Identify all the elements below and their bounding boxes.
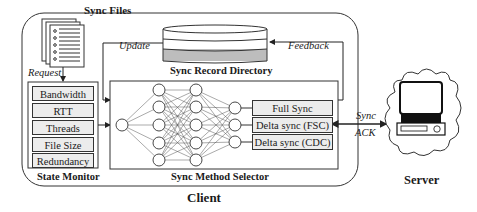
method-delta-sync-fsc: Delta sync (FSC)	[252, 117, 333, 133]
state-monitor-item-bandwidth: Bandwidth	[32, 86, 94, 101]
computer-cloud-icon	[385, 69, 461, 156]
state-monitor-item-file-size: File Size	[32, 137, 94, 152]
state-monitor-item-redundancy: Redundancy	[32, 153, 94, 168]
document-stack-icon	[42, 19, 84, 67]
method-delta-sync-cdc: Delta sync (CDC)	[252, 134, 333, 150]
sync-files-label: Sync Files	[84, 4, 131, 16]
sync-method-selector-label: Sync Method Selector	[171, 171, 269, 182]
request-label: Request	[28, 67, 61, 78]
state-monitor-item-threads: Threads	[32, 120, 94, 135]
feedback-label: Feedback	[288, 40, 329, 51]
state-monitor-label: State Monitor	[37, 171, 100, 182]
ack-label: ACK	[355, 127, 375, 138]
method-full-sync: Full Sync	[252, 100, 333, 116]
sync-record-directory-label: Sync Record Directory	[170, 65, 272, 76]
state-monitor-item-rtt: RTT	[32, 103, 94, 118]
database-cylinder-icon	[163, 25, 267, 63]
server-label: Server	[404, 173, 439, 188]
sync-label: Sync	[356, 110, 376, 121]
client-label: Client	[187, 190, 221, 206]
update-label: Update	[119, 40, 150, 51]
